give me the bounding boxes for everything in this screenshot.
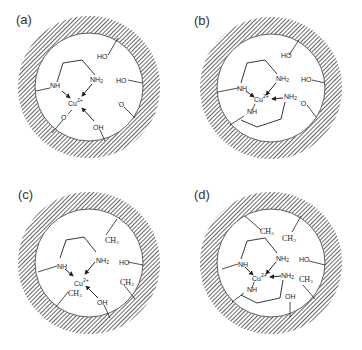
ho-label: HO	[116, 77, 127, 84]
oh-label: OH	[97, 299, 108, 306]
nh2-label: NH2	[284, 93, 297, 101]
nh2-label: NH2	[96, 257, 109, 265]
pore-diagram: NH NH2 Cu2+ O- OH HO HO -O	[0, 0, 181, 175]
nh-label: NH	[238, 261, 248, 268]
panel-a: (a) NH	[0, 0, 181, 175]
o-minus-surface-label: -O	[117, 99, 125, 108]
ho-label: HO	[299, 256, 310, 263]
panel-c: (c) NH NH2 Cu2+ CH3 OH CH3	[0, 175, 181, 350]
pore-diagram: NH NH2 Cu2+ CH3 OH CH3 HO CH3	[0, 175, 181, 350]
o-minus-surface-label: -O	[299, 98, 307, 107]
panel-b: (b) NH NH2 Cu2+ NH2 NH HO	[181, 0, 362, 175]
ho-label: HO	[301, 76, 312, 83]
figure-grid: (a) NH	[0, 0, 362, 350]
nh-label: NH	[247, 108, 257, 115]
panel-d: (d) NH NH2 Cu2+ NH2	[181, 175, 362, 350]
nh-label: NH	[50, 82, 60, 89]
pore-diagram: NH NH2 Cu2+ NH2 NH HO HO -O	[181, 0, 362, 175]
nh2-label: NH2	[90, 76, 103, 84]
nh-label: NH	[57, 263, 67, 270]
ho-label: HO	[97, 53, 108, 60]
pore-diagram: NH NH2 Cu2+ NH2 NH CH3 CH3 HO CH3 OH	[181, 175, 362, 350]
nh2-label: NH2	[276, 255, 289, 263]
nh2-label: NH2	[281, 272, 294, 280]
oh-label: OH	[285, 293, 296, 300]
ho-label: HO	[119, 259, 130, 266]
nh-label: NH	[247, 286, 257, 293]
nh2-label: NH2	[276, 75, 289, 83]
ho-label: HO	[281, 52, 292, 59]
oh-label: OH	[93, 124, 104, 131]
nh-label: NH	[237, 85, 247, 92]
